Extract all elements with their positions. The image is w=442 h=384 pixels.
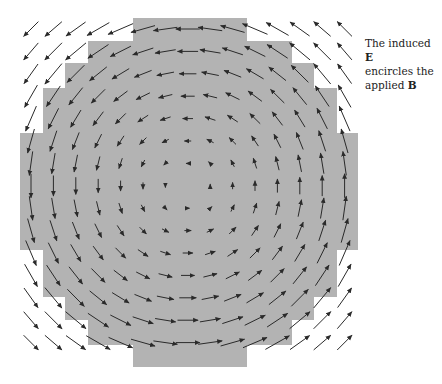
caption: The induced E encircles the applied B <box>365 36 441 92</box>
e-field-arrow <box>66 22 86 36</box>
e-field-arrow <box>108 24 133 35</box>
e-field-arrow <box>45 312 62 329</box>
e-field-arrow <box>338 264 351 286</box>
e-field-arrow <box>45 64 62 84</box>
e-field-arrow <box>314 43 331 60</box>
b-symbol: B <box>408 79 417 91</box>
e-field-arrow <box>338 85 351 107</box>
e-field-arrow <box>337 22 352 37</box>
applied-b-field-region <box>20 18 358 367</box>
caption-line-2: encircles the <box>365 64 441 78</box>
e-field-arrow <box>314 335 331 350</box>
e-field-arrow <box>24 312 39 329</box>
e-field-arrow <box>24 64 38 84</box>
e-field-arrow <box>25 85 38 107</box>
e-field-arrow <box>337 312 352 329</box>
e-field-arrow <box>87 23 109 36</box>
caption-line-1: The induced E <box>365 36 441 64</box>
e-symbol: E <box>365 51 373 63</box>
e-field-arrow <box>339 106 350 131</box>
caption-line-3: applied B <box>365 78 441 92</box>
e-field-arrow <box>290 43 310 60</box>
e-field-arrow <box>24 43 39 60</box>
e-field-arrow <box>25 264 38 286</box>
e-field-arrow <box>24 288 38 308</box>
e-field-arrow <box>24 335 39 350</box>
e-field-arrow <box>290 22 310 36</box>
e-field-arrow <box>337 335 352 350</box>
e-field-arrow <box>24 22 39 37</box>
e-field-arrow <box>66 336 86 350</box>
e-field-arrow <box>26 106 37 131</box>
e-field-arrow <box>45 335 62 350</box>
e-field-arrow <box>337 43 352 60</box>
e-field-arrow <box>266 23 288 36</box>
e-field-arrow <box>314 312 331 329</box>
e-field-arrow <box>338 288 352 308</box>
e-field-arrow <box>66 43 86 60</box>
e-field-arrow <box>290 336 310 350</box>
e-field-arrow <box>314 64 331 84</box>
e-field-arrow <box>338 64 352 84</box>
e-field-arrow <box>45 22 62 37</box>
e-field-arrow <box>314 22 331 37</box>
e-field-arrow <box>45 43 62 60</box>
